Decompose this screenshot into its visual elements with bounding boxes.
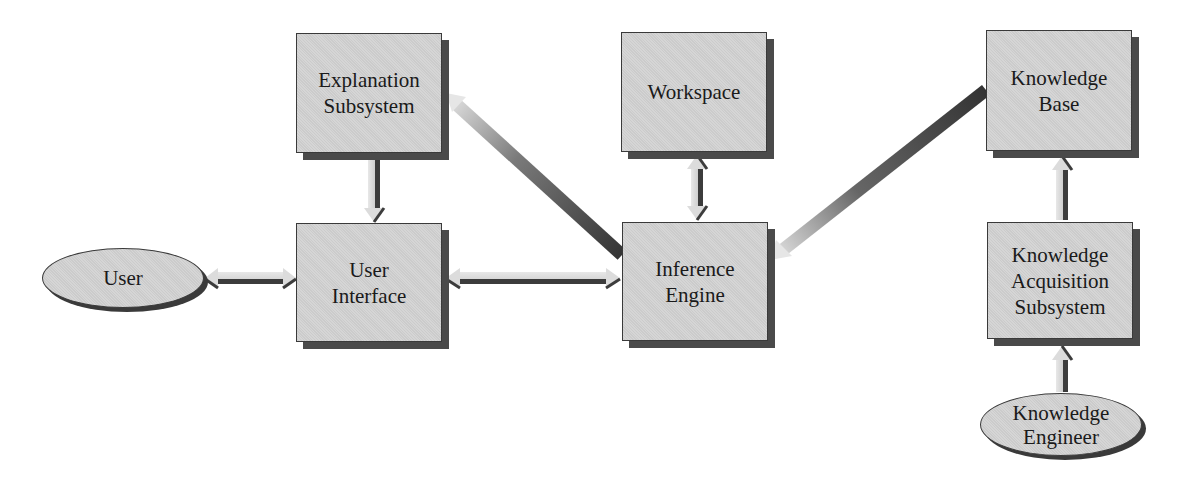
workspace-label: Workspace xyxy=(648,79,741,105)
arrow-inference-explanation xyxy=(446,93,622,255)
knowledge-engineer-label: Knowledge Engineer xyxy=(1013,401,1110,449)
user-interface-label: User Interface xyxy=(332,257,407,309)
arrow-ka-kb xyxy=(1052,156,1072,220)
user-interface-box: User Interface xyxy=(296,223,442,342)
explanation-subsystem-label: Explanation Subsystem xyxy=(318,67,419,119)
explanation-subsystem-box: Explanation Subsystem xyxy=(296,33,442,153)
knowledge-acquisition-box: Knowledge Acquisition Subsystem xyxy=(987,222,1133,339)
knowledge-acquisition-label: Knowledge Acquisition Subsystem xyxy=(1011,242,1109,320)
user-ellipse: User xyxy=(42,248,204,308)
knowledge-base-box: Knowledge Base xyxy=(986,30,1132,151)
user-label: User xyxy=(103,265,143,291)
knowledge-engineer-ellipse: Knowledge Engineer xyxy=(980,393,1142,456)
arrow-workspace-inference xyxy=(687,155,707,220)
inference-engine-label: Inference Engine xyxy=(655,256,734,308)
inference-engine-box: Inference Engine xyxy=(622,222,768,341)
arrow-kb-inference xyxy=(770,90,986,260)
arrow-ke-ka xyxy=(1052,346,1072,392)
arrow-user-ui xyxy=(205,268,296,288)
arrow-explanation-ui xyxy=(364,160,384,222)
knowledge-base-label: Knowledge Base xyxy=(1011,65,1108,117)
workspace-box: Workspace xyxy=(621,32,767,152)
arrow-ui-inference xyxy=(446,268,620,288)
